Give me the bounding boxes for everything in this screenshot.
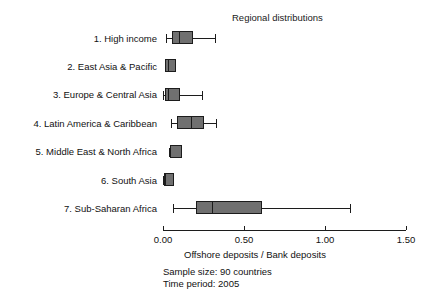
category-label-5: 5. Middle East & North Africa bbox=[5, 146, 157, 158]
box-plot-row bbox=[163, 59, 413, 72]
whisker-high-cap bbox=[215, 34, 216, 43]
median-line bbox=[179, 32, 180, 43]
x-axis-line bbox=[163, 230, 406, 231]
median-line bbox=[191, 117, 192, 128]
box-plot-row bbox=[163, 31, 413, 44]
whisker-low-cap bbox=[166, 34, 167, 43]
category-label-1: 1. High income bbox=[5, 33, 157, 45]
median-line bbox=[170, 146, 171, 157]
box-iqr-rect bbox=[172, 31, 193, 44]
whisker-low-cap bbox=[173, 204, 174, 213]
whisker-high-line bbox=[180, 95, 202, 96]
footnote-time-period: Time period: 2005 bbox=[163, 278, 239, 290]
box-iqr-rect bbox=[170, 145, 182, 158]
whisker-high-cap bbox=[350, 204, 351, 213]
whisker-low-cap bbox=[171, 119, 172, 128]
median-line bbox=[212, 202, 213, 213]
x-axis-tick-label: 0.00 bbox=[154, 234, 173, 245]
whisker-high-line bbox=[204, 123, 216, 124]
x-axis-tick-label: 0.50 bbox=[235, 234, 254, 245]
box-iqr-rect bbox=[196, 201, 262, 214]
x-axis-title: Offshore deposits / Bank deposits bbox=[184, 249, 326, 260]
whisker-high-line bbox=[193, 38, 215, 39]
median-line bbox=[165, 174, 166, 185]
category-label-6: 6. South Asia bbox=[5, 175, 157, 187]
boxplot-figure: Regional distributions 1. High income 2.… bbox=[0, 0, 428, 303]
box-plot-row bbox=[163, 201, 413, 214]
box-plot-row bbox=[163, 145, 413, 158]
x-axis-tick bbox=[163, 226, 164, 230]
category-label-2: 2. East Asia & Pacific bbox=[5, 61, 157, 73]
median-line bbox=[168, 60, 169, 71]
category-labels: 1. High income 2. East Asia & Pacific 3.… bbox=[5, 0, 157, 303]
footnote-sample-size: Sample size: 90 countries bbox=[163, 266, 272, 278]
median-line bbox=[168, 89, 169, 100]
whisker-high-line bbox=[262, 208, 350, 209]
box-iqr-rect bbox=[165, 59, 176, 72]
category-label-3: 3. Europe & Central Asia bbox=[5, 89, 157, 101]
whisker-high-cap bbox=[216, 119, 217, 128]
x-axis-tick bbox=[244, 226, 245, 230]
category-label-7: 7. Sub-Saharan Africa bbox=[5, 203, 157, 215]
x-axis-tick-label: 1.50 bbox=[397, 234, 416, 245]
box-plot-row bbox=[163, 173, 413, 186]
x-axis-tick-label: 1.00 bbox=[316, 234, 335, 245]
whisker-low-line bbox=[173, 208, 196, 209]
category-label-4: 4. Latin America & Caribbean bbox=[5, 118, 157, 130]
whisker-high-cap bbox=[202, 91, 203, 100]
box-plot-row bbox=[163, 88, 413, 101]
x-axis-tick bbox=[406, 226, 407, 230]
x-axis-tick bbox=[325, 226, 326, 230]
box-plot-row bbox=[163, 116, 413, 129]
